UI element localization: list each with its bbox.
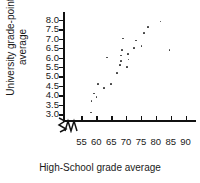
y-tick-mark	[59, 95, 64, 96]
data-point	[120, 60, 122, 62]
y-tick-label: 6.5	[46, 43, 59, 53]
x-tick-mark	[156, 116, 157, 121]
data-point	[90, 112, 92, 114]
data-point	[91, 100, 93, 102]
y-tick-mark	[59, 67, 64, 68]
data-point	[96, 96, 98, 98]
data-point	[143, 32, 145, 34]
x-tick-label: 70	[121, 136, 132, 147]
data-point	[135, 40, 137, 42]
x-axis-title: High-School grade average	[0, 162, 200, 173]
plot-area	[63, 12, 196, 132]
data-point	[141, 45, 143, 47]
x-tick-mark	[96, 116, 97, 121]
y-tick-mark	[59, 86, 64, 87]
x-tick-label: 85	[165, 136, 176, 147]
y-tick-mark	[59, 105, 64, 106]
data-point	[119, 64, 121, 66]
data-point	[106, 57, 108, 59]
y-axis-tick-labels: 3.03.54.04.55.05.56.06.57.07.58.0	[28, 10, 61, 122]
data-point	[116, 72, 118, 74]
data-point	[103, 87, 105, 89]
y-tick-label: 3.5	[46, 100, 59, 110]
x-tick-label: 75	[136, 136, 147, 147]
data-point	[93, 93, 95, 95]
data-point	[147, 26, 149, 28]
data-point	[133, 47, 135, 49]
y-tick-mark	[59, 76, 64, 77]
y-axis-title-line-1: University grade-point	[5, 0, 17, 109]
y-tick-label: 4.5	[46, 81, 59, 91]
data-point	[122, 38, 124, 40]
x-tick-label: 80	[151, 136, 162, 147]
x-axis-break-icon	[64, 118, 78, 133]
y-tick-label: 7.0	[46, 34, 59, 44]
data-point	[110, 83, 112, 85]
x-tick-mark	[141, 116, 142, 121]
x-tick-mark	[126, 116, 127, 121]
data-point	[127, 53, 129, 55]
x-tick-label: 60	[91, 136, 102, 147]
data-point	[160, 21, 162, 23]
x-axis-tick-labels: 5560657075808590	[63, 136, 200, 150]
y-tick-mark	[59, 48, 64, 49]
data-point	[97, 83, 99, 85]
x-tick-mark	[81, 116, 82, 121]
x-axis-line	[63, 120, 196, 122]
y-tick-label: 5.5	[46, 62, 59, 72]
y-tick-mark	[59, 39, 64, 40]
y-tick-label: 8.0	[46, 15, 59, 25]
y-tick-mark	[59, 58, 64, 59]
y-tick-label: 5.0	[46, 72, 59, 82]
y-tick-mark	[59, 20, 64, 21]
scatter-plot-figure: University grade-point average 3.03.54.0…	[0, 0, 200, 183]
y-tick-label: 4.0	[46, 91, 59, 101]
y-tick-label: 7.5	[46, 24, 59, 34]
x-tick-mark	[171, 116, 172, 121]
data-point	[121, 49, 123, 51]
x-tick-label: 65	[106, 136, 117, 147]
data-point	[169, 49, 171, 51]
x-tick-label: 90	[180, 136, 191, 147]
x-tick-mark	[186, 116, 187, 121]
y-tick-mark	[59, 114, 64, 115]
x-tick-label: 55	[76, 136, 87, 147]
x-tick-mark	[111, 116, 112, 121]
y-tick-label: 6.0	[46, 53, 59, 63]
data-point	[120, 55, 122, 57]
data-point	[126, 66, 128, 68]
y-tick-mark	[59, 29, 64, 30]
data-point	[128, 59, 130, 61]
